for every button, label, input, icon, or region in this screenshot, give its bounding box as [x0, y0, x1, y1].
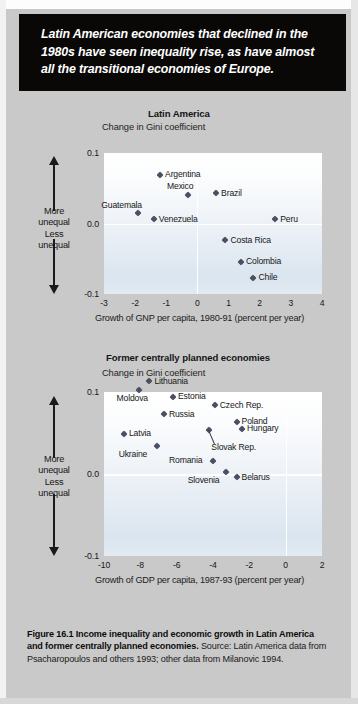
figure-caption: Figure 16.1 Income inequality and econom… — [27, 628, 329, 665]
chart-2-ytick: -0.1 — [72, 551, 99, 561]
chart-1-ytick: 0.1 — [72, 148, 99, 158]
chart-1-y-axis-label: Change in Gini coefficient — [102, 122, 205, 132]
data-point-label: Mexico — [167, 181, 193, 191]
data-point-label: Czech Rep. — [220, 400, 263, 410]
data-point-label: Argentina — [165, 169, 200, 179]
arrow-shaft-up — [53, 164, 55, 211]
data-point-label: Ukraine — [119, 449, 148, 459]
page-edge-top — [0, 0, 358, 9]
data-point-label: Slovak Rep. — [211, 442, 256, 452]
chart-2-xtick: -10 — [98, 560, 110, 570]
arrow-shaft-down — [53, 494, 55, 548]
data-point-label: Moldova — [117, 393, 148, 403]
data-point-label: Guatemala — [101, 200, 142, 210]
chart-1-x-axis-label: Growth of GNP per capita, 1980-91 (perce… — [95, 313, 304, 323]
data-point-marker — [146, 378, 153, 385]
data-point-label: Costa Rica — [230, 235, 271, 245]
chart-1-ytick: -0.1 — [72, 289, 99, 299]
data-point-label: Venezuela — [159, 214, 198, 224]
data-point-label: Chile — [258, 272, 277, 282]
page-edge-right — [351, 0, 358, 704]
chart-2-xtick: -4 — [209, 560, 216, 570]
data-point-label: Latvia — [129, 428, 151, 438]
data-point-label: Peru — [280, 214, 298, 224]
chart-1-xtick: -2 — [131, 298, 138, 308]
data-point-label: Brazil — [221, 188, 242, 198]
arrow-head-down-icon — [49, 285, 59, 294]
data-point-label: Lithuania — [154, 376, 188, 386]
chart-2-xtick: -2 — [246, 560, 253, 570]
data-point-label: Slovenia — [188, 475, 220, 485]
data-point-label: Colombia — [246, 256, 281, 266]
chart-2-xtick: -8 — [137, 560, 144, 570]
chart-1-less-unequal-label: Lessunequal — [26, 229, 82, 251]
chart-2-xtick: -6 — [173, 560, 180, 570]
arrow-head-down-icon — [49, 547, 59, 556]
figure-page: Latin American economies that declined i… — [0, 0, 358, 704]
chart-1-xtick: -3 — [100, 298, 107, 308]
page-edge-left — [0, 0, 6, 704]
chart-2-title: Former centrally planned economies — [106, 352, 270, 363]
chart-1-xtick: 3 — [289, 298, 294, 308]
chart-2-xtick: 2 — [320, 560, 325, 570]
data-point-label: Belarus — [242, 472, 270, 482]
data-point-label: Hungary — [247, 423, 278, 433]
data-point-label: Russia — [169, 409, 194, 419]
chart-1-xtick: 0 — [195, 298, 200, 308]
chart-2-less-unequal-label: Lessunequal — [26, 477, 82, 499]
chart-2-ytick: 0.1 — [72, 387, 99, 397]
chart-1-xtick: 1 — [226, 298, 231, 308]
data-point-label: Romania — [169, 455, 202, 465]
chart-1-xtick: 4 — [320, 298, 325, 308]
chart-2-more-unequal-label: Moreunequal — [26, 454, 82, 476]
chart-1-xtick: 2 — [257, 298, 262, 308]
data-point-label: Estonia — [178, 391, 206, 401]
chart-1-xtick: -1 — [163, 298, 170, 308]
chart-1-more-unequal-label: Moreunequal — [26, 206, 82, 228]
chart-2-x-axis-label: Growth of GDP per capita, 1987-93 (perce… — [95, 575, 304, 585]
arrow-shaft-up — [53, 404, 55, 458]
chart-2-xtick: 0 — [283, 560, 288, 570]
chart-1-title: Latin America — [148, 108, 210, 119]
headline-banner: Latin American economies that declined i… — [19, 14, 346, 91]
headline-text: Latin American economies that declined i… — [41, 26, 330, 79]
page-edge-bottom — [0, 698, 358, 704]
